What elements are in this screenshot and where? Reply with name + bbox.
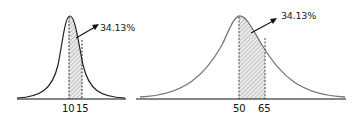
right-annotation-label: 34.13% [281, 11, 316, 21]
right-shaded-region [239, 10, 265, 99]
right-normal-curve-chart [136, 10, 346, 99]
right-annotation-arrow [251, 21, 273, 33]
left-annotation-arrow [76, 27, 95, 38]
left-tick-label-mean: 10 [62, 104, 75, 114]
left-arrowhead-icon [92, 24, 99, 30]
left-shaded-region [69, 10, 82, 99]
right-arrowhead-icon [270, 18, 277, 24]
right-tick-label-sd: 65 [258, 104, 271, 114]
right-tick-label-mean: 50 [233, 104, 246, 114]
left-annotation-label: 34.13% [100, 23, 135, 33]
left-tick-label-sd: 15 [76, 104, 89, 114]
